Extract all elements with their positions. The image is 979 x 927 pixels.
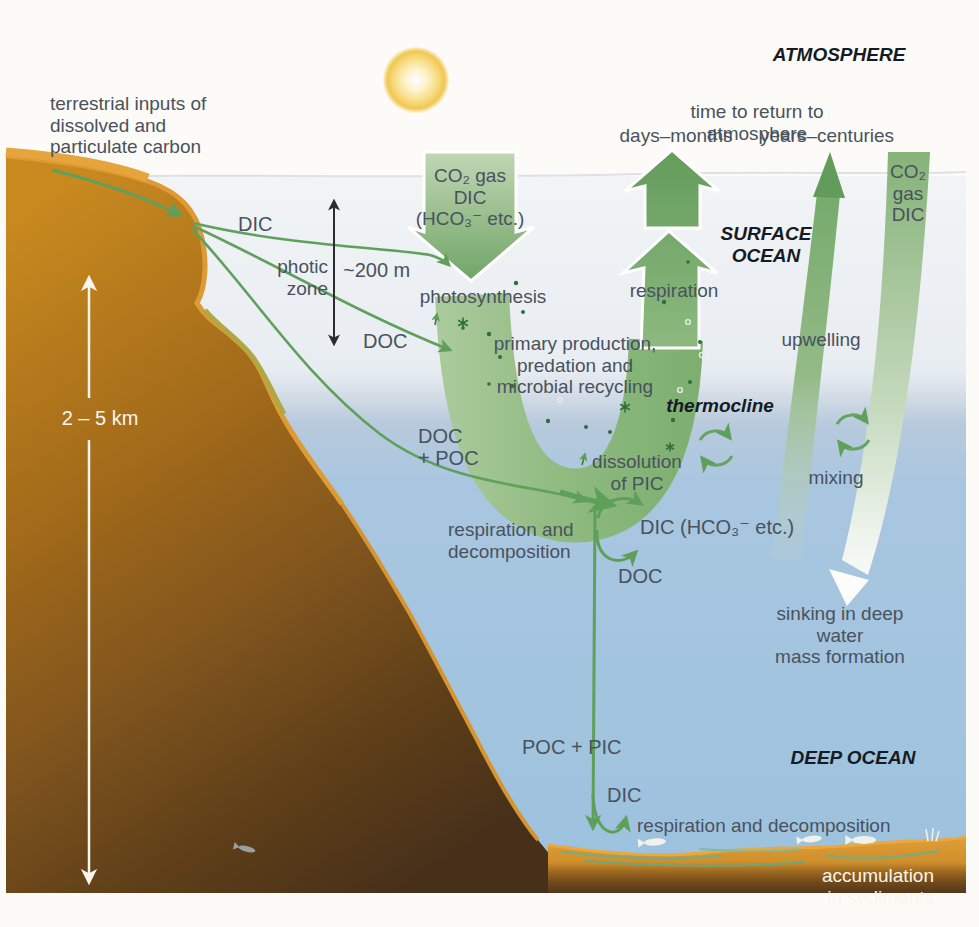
label-photic-zone: photic zone [277, 256, 328, 299]
label-mixing: mixing [809, 467, 864, 489]
label-terrestrial-inputs: terrestrial inputs of dissolved and part… [50, 93, 206, 158]
label-upwelling: upwelling [781, 329, 860, 351]
label-sinking-deep-water: sinking in deep water mass formation [771, 603, 910, 668]
label-accumulation-sediments: accumulation in sediments [822, 865, 934, 908]
label-respiration-surface: respiration [630, 280, 719, 302]
label-co2-gas-dic-right: CO₂ gas DIC [873, 161, 944, 226]
label-dic-river: DIC [238, 214, 272, 236]
label-thermocline: thermocline [666, 395, 774, 417]
label-doc-mid: DOC [618, 566, 662, 588]
label-dic-bottom: DIC [607, 785, 641, 807]
label-dissolution-of-pic: dissolution of PIC [592, 451, 682, 494]
label-atmosphere: ATMOSPHERE [773, 44, 906, 66]
label-depth-scale: 2 – 5 km [62, 408, 139, 430]
label-photosynthesis: photosynthesis [420, 286, 547, 308]
label-co2-gas-dic-down: CO₂ gas DIC (HCO₃⁻ etc.) [416, 165, 525, 230]
label-doc-river: DOC [363, 331, 407, 353]
label-doc-poc: DOC + POC [418, 426, 479, 469]
ocean-carbon-cycle-diagram: ATMOSPHERE terrestrial inputs of dissolv… [0, 0, 979, 927]
sun-icon [383, 47, 449, 113]
label-deep-ocean: DEEP OCEAN [791, 747, 916, 769]
label-dic-hco3-mid: DIC (HCO₃⁻ etc.) [640, 517, 794, 539]
label-200m: ~200 m [343, 260, 410, 282]
label-primary-production: primary production, predation and microb… [494, 333, 657, 398]
label-poc-pic: POC + PIC [522, 737, 621, 759]
label-years-centuries: years–centuries [760, 125, 894, 147]
label-respiration-decomposition-bottom: respiration and decomposition [637, 815, 891, 837]
label-days-months: days–months [619, 125, 732, 147]
label-surface-ocean: SURFACE OCEAN [721, 223, 812, 266]
sinking-particle-line [593, 510, 595, 828]
label-respiration-decomposition-mid: respiration and decomposition [448, 519, 574, 562]
